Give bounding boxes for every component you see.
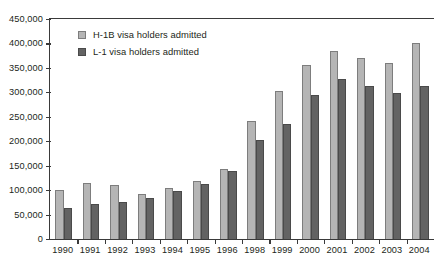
bar [173, 191, 181, 239]
bar [83, 183, 91, 239]
x-axis-tick-label: 2003 [381, 245, 402, 255]
bar [119, 202, 127, 239]
x-axis-tick-label: 1991 [80, 245, 101, 255]
bar [193, 181, 201, 239]
bar-group [220, 19, 236, 239]
bar-group [247, 19, 263, 239]
bar-group [55, 19, 71, 239]
y-axis-tick-label: 50,000 [14, 210, 50, 220]
legend-swatch-l1-icon [78, 48, 86, 56]
bar [311, 95, 319, 239]
bar [302, 65, 310, 239]
bar-chart: 450,000400,000350,000300,000250,000200,0… [0, 0, 445, 267]
y-axis-tick-label: 250,000 [9, 112, 50, 122]
bar-group [357, 19, 373, 239]
legend-label-l1: L-1 visa holders admitted [93, 46, 199, 57]
x-axis-tick-label: 1992 [107, 245, 128, 255]
bar [412, 43, 420, 239]
x-axis-tick [269, 239, 270, 244]
bar [247, 121, 255, 239]
x-axis-tick [242, 239, 243, 244]
x-axis-tick-label: 2002 [354, 245, 375, 255]
x-axis-tick [160, 239, 161, 244]
y-axis-tick-label: 450,000 [9, 14, 50, 24]
x-axis-tick-label: 1994 [162, 245, 183, 255]
x-axis-tick [187, 239, 188, 244]
x-axis-tick-label: 2000 [299, 245, 320, 255]
bar-group [275, 19, 291, 239]
bar [256, 140, 264, 239]
bar-group [302, 19, 318, 239]
bar [385, 63, 393, 239]
y-axis-tick-label: 150,000 [9, 161, 50, 171]
y-axis-tick-label: 100,000 [9, 185, 50, 195]
bar [138, 194, 146, 239]
y-axis-tick-label: 350,000 [9, 63, 50, 73]
legend-item-l1: L-1 visa holders admitted [78, 43, 207, 60]
y-axis-tick-label: 300,000 [9, 87, 50, 97]
x-axis-tick-label: 1993 [135, 245, 156, 255]
bar-group [330, 19, 346, 239]
bar [55, 190, 63, 239]
y-axis-tick-label: 0 [38, 234, 50, 244]
bar [357, 58, 365, 239]
bar [338, 79, 346, 239]
bar [393, 93, 401, 239]
x-axis-tick [215, 239, 216, 244]
x-axis-tick [132, 239, 133, 244]
legend-label-h1b: H-1B visa holders admitted [93, 29, 207, 40]
bar [110, 185, 118, 239]
x-axis-tick [105, 239, 106, 244]
legend-swatch-h1b-icon [78, 31, 86, 39]
x-axis-tick-label: 2001 [327, 245, 348, 255]
y-axis-tick-label: 200,000 [9, 136, 50, 146]
x-axis-tick-label: 2004 [409, 245, 430, 255]
bar [165, 188, 173, 239]
legend-item-h1b: H-1B visa holders admitted [78, 26, 207, 43]
bar-group [385, 19, 401, 239]
x-axis-tick [77, 239, 78, 244]
bar [275, 91, 283, 239]
x-axis-tick [352, 239, 353, 244]
x-axis-tick-label: 1998 [244, 245, 265, 255]
x-axis-tick [407, 239, 408, 244]
legend: H-1B visa holders admitted L-1 visa hold… [78, 26, 207, 60]
bar-group [412, 19, 428, 239]
x-axis-tick [379, 239, 380, 244]
bar [146, 198, 154, 239]
x-axis-tick-label: 1990 [52, 245, 73, 255]
bar [283, 124, 291, 239]
bar [64, 208, 72, 239]
x-axis-tick-label: 1999 [272, 245, 293, 255]
x-axis-tick-label: 1996 [217, 245, 238, 255]
bar [91, 204, 99, 239]
bar [330, 51, 338, 239]
x-axis-tick-label: 1995 [189, 245, 210, 255]
x-axis-tick [297, 239, 298, 244]
bar [420, 86, 428, 240]
bar [220, 169, 228, 239]
bar [201, 184, 209, 239]
bar [228, 171, 236, 239]
bar [365, 86, 373, 239]
x-axis-tick [324, 239, 325, 244]
y-axis-tick-label: 400,000 [9, 38, 50, 48]
